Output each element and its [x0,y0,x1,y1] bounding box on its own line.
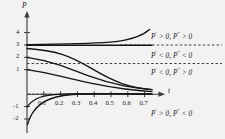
y-tick-label-2: 2 [16,52,19,59]
annot4-op2: < 0 [180,110,192,118]
y-axis-group [24,11,29,133]
annot4-op1: > 0, [157,110,173,118]
region-label-neg-pos: P′ < 0, P″ > 0 [151,69,192,77]
region-label-neg-neg: P′ < 0, P″ < 0 [151,52,192,60]
annot1-op2: > 0 [180,33,192,41]
annot3-op2: > 0 [180,69,192,77]
phase-plot-figure: P t 4 3 2 1 -1 -2 0.1 0.2 0.3 0.4 0.5 0.… [0,0,225,139]
x-tick-label-04: 0.4 [89,99,97,106]
annot3-op1: < 0, [157,69,173,77]
y-tick-label-3: 3 [16,40,19,47]
y-axis-arrowhead [24,11,29,18]
region-label-pos-neg: P′ > 0, P″ < 0 [151,110,192,118]
annot1-op1: > 0, [157,33,173,41]
x-tick-label-07: 0.7 [140,99,148,106]
region-label-pos-pos: P′ > 0, P″ > 0 [151,33,192,41]
x-tick-label-06: 0.6 [123,99,131,106]
y-axis-label: P [22,1,27,10]
y-tick-label-4: 4 [16,28,19,35]
annot2-op1: < 0, [157,52,173,60]
x-tick-label-02: 0.2 [55,99,63,106]
curve-from-1p0 [27,70,152,92]
y-tick-label-neg1: -1 [13,102,19,109]
x-tick-label-05: 0.5 [106,99,114,106]
annot2-op2: < 0 [180,52,192,60]
solution-curves-group [27,29,152,124]
x-tick-label-03: 0.3 [72,99,80,106]
x-axis-arrowhead [159,92,166,97]
y-tick-label-1: 1 [16,65,19,72]
x-tick-label-01: 0.1 [38,99,46,106]
y-tick-label-neg2: -2 [13,114,19,121]
curve-increasing-convex [27,29,150,44]
x-axis-label: t [168,86,170,95]
